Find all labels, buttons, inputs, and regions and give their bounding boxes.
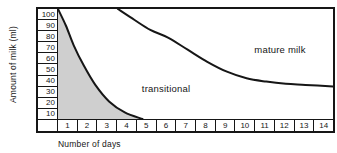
x-tick-label: 13 — [294, 120, 314, 131]
chart-main-row: 100908070605040302010 transitionalmature… — [38, 9, 333, 119]
x-tick-label: 3 — [96, 120, 116, 131]
x-tick-label: 9 — [215, 120, 235, 131]
x-axis-tick-row: 1234567891011121314 — [58, 120, 333, 131]
x-tick-label: 5 — [136, 120, 156, 131]
region-label-transitional: transitional — [142, 83, 190, 94]
x-tick-label: 7 — [175, 120, 195, 131]
x-tick-label: 2 — [77, 120, 97, 131]
y-tick-label: 100 — [38, 9, 57, 20]
y-axis-title: Amount of milk (ml) — [8, 4, 21, 126]
x-tick-label: 6 — [156, 120, 176, 131]
x-tick-label: 14 — [313, 120, 333, 131]
x-tick-label: 1 — [58, 120, 77, 131]
x-tick-label: 4 — [116, 120, 136, 131]
y-tick-label: 80 — [38, 31, 57, 42]
y-tick-label: 10 — [38, 109, 57, 119]
y-tick-label: 60 — [38, 53, 57, 64]
chart-frame: 100908070605040302010 transitionalmature… — [36, 7, 335, 133]
y-tick-label: 90 — [38, 20, 57, 31]
corner-cell — [38, 120, 58, 131]
x-tick-label: 10 — [234, 120, 254, 131]
y-tick-label: 20 — [38, 98, 57, 109]
plot-area: transitionalmature milk — [58, 9, 333, 119]
y-tick-label: 30 — [38, 87, 57, 98]
x-tick-label: 11 — [254, 120, 274, 131]
y-tick-label: 50 — [38, 64, 57, 75]
y-axis-tick-column: 100908070605040302010 — [38, 9, 58, 119]
y-tick-label: 70 — [38, 42, 57, 53]
x-tick-label: 8 — [195, 120, 215, 131]
x-tick-label: 12 — [274, 120, 294, 131]
curves-svg — [58, 9, 333, 119]
region-label-mature-milk: mature milk — [254, 43, 305, 54]
x-axis-title: Number of days — [58, 139, 121, 149]
colostrum-shaded-boundary-fill — [58, 9, 142, 119]
y-tick-label: 40 — [38, 76, 57, 87]
x-axis-row: 1234567891011121314 — [38, 119, 333, 131]
